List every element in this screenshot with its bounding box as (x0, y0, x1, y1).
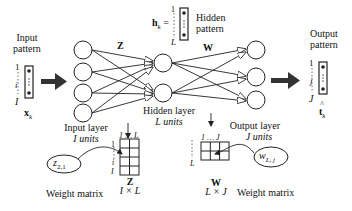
hidden-index-top: 1 (171, 4, 175, 15)
z-connections (92, 50, 153, 113)
output-layer-label: Output layer J units (226, 120, 284, 142)
w-weight-label: W (203, 42, 213, 53)
z-matrix-grid (120, 139, 139, 175)
hidden-pattern-vector (174, 8, 188, 40)
w-element-label: wL, j (259, 150, 275, 166)
hidden-pattern-equation: hk = (152, 17, 169, 33)
input-pattern-title: Input pattern (7, 32, 47, 54)
w-matrix-grid (201, 142, 229, 160)
hidden-pattern-title: Hidden pattern (196, 12, 225, 34)
hidden-index-bottom: L (171, 37, 176, 48)
input-index-top: 1 (15, 62, 20, 73)
z-weight-label: Z (117, 40, 124, 51)
input-layer-nodes (74, 41, 92, 122)
input-index-bottom: I (15, 96, 18, 107)
w-connections (172, 49, 246, 101)
w-matrix-name: W L × J (203, 178, 229, 196)
output-arrow-icon (271, 72, 300, 89)
hidden-layer-nodes (154, 54, 172, 102)
z-weight-matrix-caption: Weight matrix (46, 188, 103, 199)
output-vector-label: ^ tk (319, 101, 325, 120)
z-element-pointer (78, 147, 122, 159)
z-matrix-name: Z I × L (112, 177, 148, 195)
w-matrix-col-header: 1 … J (201, 132, 220, 143)
output-pattern-title: Output pattern (300, 28, 348, 50)
input-index-mid: i (15, 80, 18, 91)
z-matrix-col-header: 1 … L (119, 130, 139, 141)
input-layer-label: Input layer I units (58, 122, 114, 144)
w-matrix-row-bottom: L (190, 158, 194, 169)
output-index-bottom: J (309, 93, 313, 104)
hidden-layer-label: Hidden layer L units (138, 105, 200, 127)
z-matrix-row-top: 1 (111, 139, 115, 150)
output-index-mid: j (310, 76, 313, 87)
input-pattern-vector (18, 66, 33, 98)
output-index-top: 1 (309, 58, 314, 69)
neural-network-diagram: Input pattern 1 i I xk hk = 1 L Hidden p… (0, 0, 352, 211)
output-pattern-vector (312, 62, 327, 94)
z-element-label: z2,1 (53, 157, 66, 173)
input-arrow-icon (41, 73, 67, 90)
output-layer-nodes (247, 41, 265, 109)
input-vector-label: xk (24, 107, 32, 123)
w-weight-matrix-caption: Weight matrix (237, 187, 294, 198)
z-matrix-row-bottom: I (111, 166, 114, 177)
